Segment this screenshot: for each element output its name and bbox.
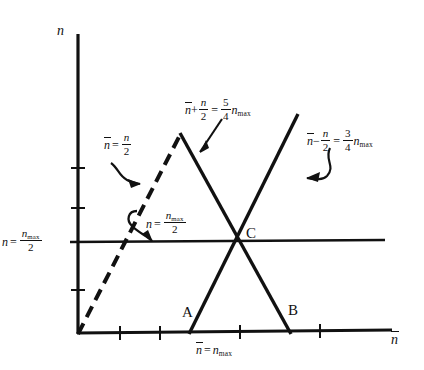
arrow-to-descending-line: [200, 119, 222, 153]
point-label-a: A: [182, 305, 193, 320]
mid-callout-label: n=nmax2: [146, 210, 187, 236]
point-label-c: C: [246, 226, 256, 241]
dashed-line-label: n=n2: [104, 132, 132, 157]
point-label-b: B: [288, 303, 298, 318]
arrow-to-dashed-line: [111, 163, 141, 188]
x-axis: [77, 330, 392, 333]
y-axis-label: n: [57, 24, 64, 38]
plot-vector-layer: [0, 0, 424, 370]
horizontal-level-line: [70, 240, 385, 242]
x-axis-label: n̄n: [391, 333, 398, 347]
figure-canvas: n n̄n n=nmax2 n=nmax n=n2 n=nmax2 n+n2=5…: [0, 0, 424, 370]
descending-line-label: n+n2=54nmax: [185, 97, 251, 122]
y-level-label: n=nmax2: [2, 228, 43, 254]
x-level-label: n=nmax: [196, 344, 232, 358]
ascending-line-label: n−n2=34nmax: [307, 128, 373, 153]
